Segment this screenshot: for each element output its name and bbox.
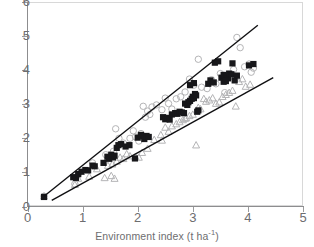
data-point-filled-square	[100, 160, 106, 166]
data-point-filled-square	[193, 92, 199, 98]
data-point-open-circle	[112, 126, 118, 132]
data-point-filled-square	[126, 142, 132, 148]
data-point-filled-square	[111, 153, 117, 159]
data-point-open-triangle	[193, 142, 200, 148]
data-point-open-circle	[182, 89, 188, 95]
data-point-filled-square	[211, 79, 217, 85]
data-point-open-circle	[130, 128, 136, 134]
data-point-filled-square	[228, 71, 234, 77]
scatter-chart-figure: 0123456012345 Environment index (t ha-1)	[0, 0, 314, 247]
data-point-filled-square	[229, 60, 235, 66]
data-point-open-triangle	[101, 174, 108, 180]
data-point-open-triangle	[247, 81, 254, 87]
data-point-filled-square	[195, 107, 201, 113]
data-point-open-triangle	[108, 172, 115, 178]
data-point-open-circle	[237, 44, 243, 50]
data-point-filled-square	[92, 163, 98, 169]
data-point-open-triangle	[232, 103, 239, 109]
data-point-open-circle	[195, 56, 201, 62]
upper-bound-line	[44, 25, 258, 196]
x-axis-title-exponent: -1	[208, 228, 215, 237]
data-point-open-triangle	[157, 131, 164, 137]
x-axis-title: Environment index (t ha-1)	[0, 228, 314, 242]
data-point-filled-square	[181, 110, 187, 116]
data-point-filled-square	[250, 61, 256, 67]
data-point-filled-square	[223, 78, 229, 84]
data-point-filled-square	[191, 80, 197, 86]
data-point-open-circle	[159, 107, 165, 113]
plot-canvas	[0, 0, 314, 247]
data-point-filled-square	[234, 73, 240, 79]
data-point-filled-square	[146, 134, 152, 140]
